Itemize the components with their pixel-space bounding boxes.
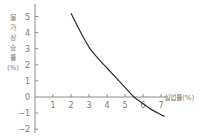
y-tick-label: 3 bbox=[25, 45, 30, 54]
y-axis-label-char: (%) bbox=[7, 64, 19, 72]
x-tick-label: 7 bbox=[158, 101, 163, 110]
y-tick-label: −2 bbox=[18, 125, 30, 134]
x-ticks: 1234567 bbox=[50, 94, 163, 110]
x-tick-label: 1 bbox=[50, 101, 55, 110]
x-tick-label: 3 bbox=[86, 101, 91, 110]
y-tick-label: 5 bbox=[25, 13, 30, 22]
y-tick-label: 2 bbox=[25, 61, 30, 70]
phillips-curve-line bbox=[71, 13, 165, 116]
y-tick-label: 4 bbox=[25, 29, 30, 38]
x-tick-label: 2 bbox=[68, 101, 73, 110]
y-tick-label: −1 bbox=[18, 109, 30, 118]
y-axis-label: 물가상승률(%) bbox=[7, 14, 19, 72]
y-axis-label-char: 가 bbox=[10, 23, 17, 32]
y-tick-label: 1 bbox=[25, 77, 30, 86]
y-axis-label-char: 상 bbox=[10, 33, 17, 42]
y-tick-label: 0 bbox=[25, 93, 30, 102]
x-tick-label: 4 bbox=[104, 101, 109, 110]
y-axis-label-char: 률 bbox=[10, 54, 17, 62]
y-axis-label-char: 승 bbox=[10, 44, 17, 52]
x-axis-label: 실업률(%) bbox=[164, 93, 194, 102]
phillips-curve-chart: 물가상승률(%) 543210−1−2 1234567 실업률(%) bbox=[0, 0, 203, 139]
x-tick-label: 5 bbox=[122, 101, 127, 110]
y-axis-label-char: 물 bbox=[10, 14, 17, 22]
